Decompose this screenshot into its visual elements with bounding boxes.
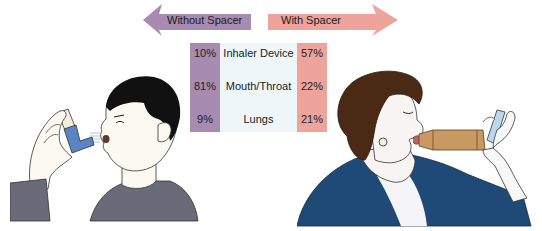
woman-spacer-illustration [297, 66, 542, 231]
row-label-mouth-throat: Mouth/Throat [220, 79, 297, 93]
without-spacer-label: Without Spacer [167, 13, 242, 27]
with-inhaler-device-pct: 57% [297, 46, 327, 60]
row-label-inhaler-device: Inhaler Device [220, 46, 297, 60]
row-label-lungs: Lungs [220, 112, 297, 126]
with-spacer-label: With Spacer [281, 13, 341, 27]
man-inhaler-illustration [10, 71, 200, 231]
without-inhaler-device-pct: 10% [190, 46, 220, 60]
